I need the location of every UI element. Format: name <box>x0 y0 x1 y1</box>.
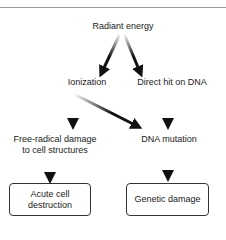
arrow-ionization-to-dna-mutation <box>74 94 137 126</box>
arrow-radiant-to-ionization <box>102 34 120 72</box>
node-acute-cell-destruction: Acute cell destruction <box>9 183 91 216</box>
node-ionization: Ionization <box>62 77 112 88</box>
node-radiant-energy: Radiant energy <box>88 21 158 32</box>
node-genetic-damage: Genetic damage <box>126 183 209 216</box>
acute-line1: Acute cell <box>28 189 72 200</box>
arrow-radiant-to-direct-hit <box>124 34 140 72</box>
node-free-radical: Free-radical damage to cell structures <box>10 134 100 156</box>
acute-line2: destruction <box>28 200 72 211</box>
node-dna-mutation: DNA mutation <box>138 134 200 145</box>
free-radical-line2: to cell structures <box>10 145 100 156</box>
node-direct-hit: Direct hit on DNA <box>133 77 211 88</box>
free-radical-line1: Free-radical damage <box>10 134 100 145</box>
